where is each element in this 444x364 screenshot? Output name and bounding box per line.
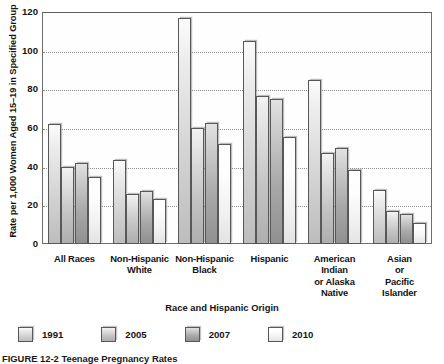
bar-2010: [88, 177, 101, 244]
x-tick-label-line: Islander: [361, 287, 438, 298]
legend-swatch-2010: [268, 327, 283, 342]
legend-swatch-2007: [185, 327, 200, 342]
bar-group: [48, 12, 102, 244]
y-tick-label: 40: [8, 161, 38, 172]
y-tick-label: 60: [8, 122, 38, 133]
legend-item-1991: 1991: [18, 327, 63, 342]
legend-item-2007: 2007: [185, 327, 230, 342]
x-tick-label-line: Asian: [361, 253, 438, 264]
bar-1991: [113, 160, 126, 244]
bar-2010: [153, 199, 166, 244]
y-tick-label: 0: [8, 238, 38, 249]
y-tick-label: 100: [8, 45, 38, 56]
legend-swatch-1991: [18, 327, 33, 342]
x-tick-label-line: or: [361, 264, 438, 275]
bar-2007: [270, 99, 283, 244]
bar-1991: [48, 124, 61, 244]
bar-group: [308, 12, 362, 244]
y-tick-label: 80: [8, 83, 38, 94]
legend-label-1991: 1991: [42, 329, 63, 340]
bar-2010: [283, 137, 296, 244]
x-tick-label-line: Pacific: [361, 276, 438, 287]
bar-group: [113, 12, 167, 244]
x-tick-label-line: Black: [166, 264, 243, 275]
bar-2005: [61, 167, 74, 244]
bar-group: [373, 12, 427, 244]
bar-2007: [205, 123, 218, 244]
bar-2005: [126, 194, 139, 244]
figure-caption: FIGURE 12-2 Teenage Pregnancy Rates: [2, 353, 177, 364]
bar-2005: [321, 153, 334, 244]
bar-1991: [178, 18, 191, 244]
bar-2005: [386, 211, 399, 244]
bar-1991: [243, 41, 256, 244]
y-tick-label: 20: [8, 199, 38, 210]
bar-1991: [308, 80, 321, 244]
legend-swatch-2005: [101, 327, 116, 342]
bar-2005: [191, 128, 204, 244]
bar-2007: [400, 214, 413, 244]
bar-group: [178, 12, 232, 244]
bar-2007: [140, 191, 153, 244]
bar-group: [243, 12, 297, 244]
legend-item-2010: 2010: [268, 327, 313, 342]
bar-1991: [373, 190, 386, 244]
x-axis-title: Race and Hispanic Origin: [0, 302, 444, 313]
legend-label-2010: 2010: [292, 329, 313, 340]
legend: 1991200520072010: [18, 327, 351, 342]
bar-2010: [348, 170, 361, 244]
legend-label-2007: 2007: [209, 329, 230, 340]
figure-teenage-pregnancy-rates: Rate per 1,000 Women Aged 15–19 in Speci…: [0, 0, 444, 364]
bar-2007: [75, 163, 88, 244]
bar-2010: [413, 223, 426, 244]
legend-label-2005: 2005: [125, 329, 146, 340]
bar-2007: [335, 148, 348, 244]
bar-series-container: [42, 12, 432, 244]
y-tick-label: 120: [8, 6, 38, 17]
x-tick-label: AsianorPacificIslander: [361, 253, 438, 299]
bar-2010: [218, 144, 231, 244]
legend-item-2005: 2005: [101, 327, 146, 342]
bar-2005: [256, 96, 269, 244]
